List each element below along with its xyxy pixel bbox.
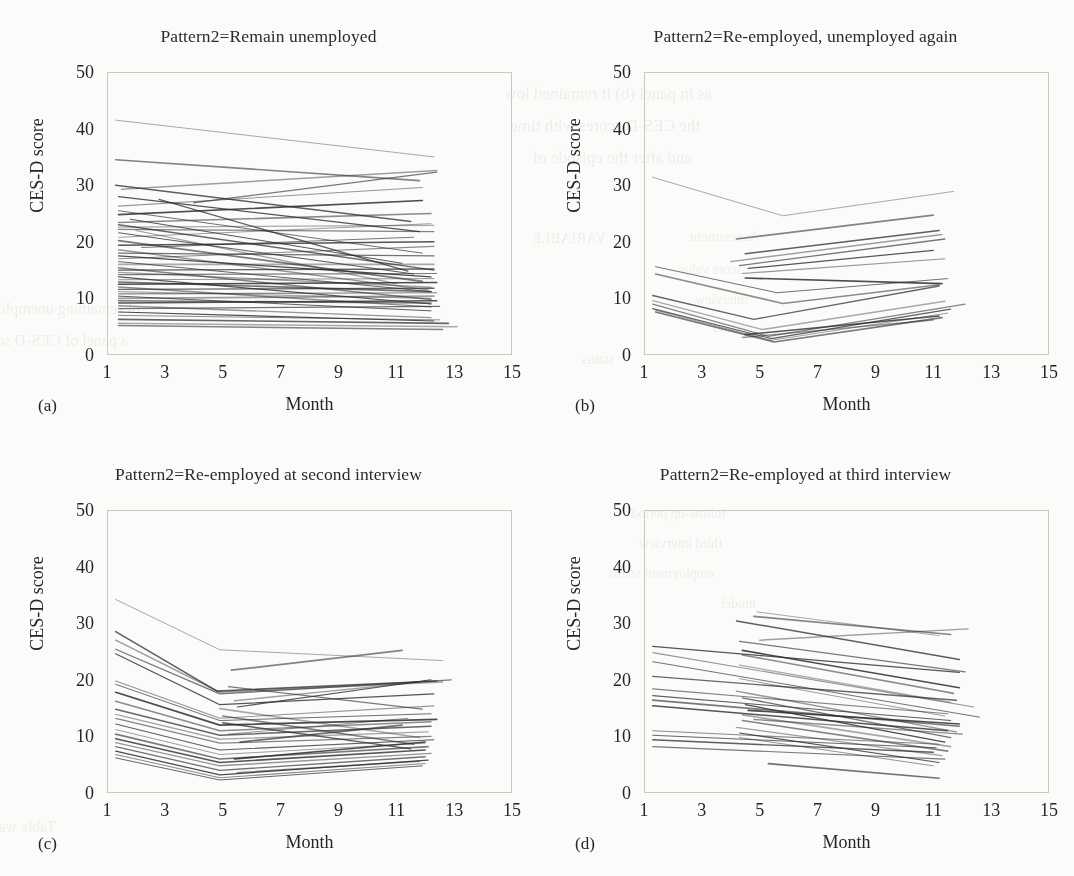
trajectory-line [745,278,942,284]
x-axis-tick-label: 15 [1029,801,1069,819]
panel-d-letter: (d) [575,834,595,854]
trajectory-line [116,160,420,181]
x-axis-tick-label: 9 [855,363,895,381]
trajectory-line [116,755,426,778]
x-axis-tick-label: 7 [261,363,301,381]
x-axis-tick-label: 3 [682,801,722,819]
x-axis-tick-label: 13 [971,801,1011,819]
trajectory-line [231,650,402,670]
y-axis-tick-label: 0 [585,784,631,802]
x-axis-tick-label: 9 [855,801,895,819]
x-axis-tick-label: 15 [492,801,532,819]
trajectory-line [116,649,452,694]
y-axis-tick-label: 0 [48,784,94,802]
trajectory-line [656,274,940,303]
x-axis-tick-label: 15 [492,363,532,381]
y-axis-tick-label: 30 [48,614,94,632]
y-axis-tick-label: 40 [48,120,94,138]
x-axis-tick-label: 7 [261,801,301,819]
panel-c-letter: (c) [38,834,57,854]
x-axis-tick-label: 13 [434,801,474,819]
trajectory-line [119,296,434,298]
panel-b-lines [644,72,1049,355]
panel-c-lines [107,510,512,793]
trajectory-line [116,120,434,157]
panel-d-lines [644,510,1049,793]
x-axis-tick-label: 1 [624,363,664,381]
y-axis-tick-label: 0 [48,346,94,364]
trajectory-line [237,680,431,707]
x-axis-tick-label: 11 [376,801,416,819]
trajectory-line [116,632,437,691]
trajectory-line [768,764,939,779]
y-axis-tick-label: 50 [48,63,94,81]
panel-a-lines [107,72,512,355]
panel-a-letter: (a) [38,396,57,416]
trajectory-line [119,279,434,280]
panel-c-title: Pattern2=Re-employed at second interview [0,464,537,485]
x-axis-tick-label: 1 [87,363,127,381]
y-axis-tick-label: 20 [48,233,94,251]
chart-panel-b: Pattern2=Re-employed, unemployed again C… [537,0,1074,438]
trajectory-line [119,288,434,289]
trajectory-line [653,177,954,215]
x-axis-tick-label: 3 [145,363,185,381]
figure-page: as in panel (b) it remained lowthe CES-D… [0,0,1074,876]
x-axis-tick-label: 5 [740,801,780,819]
trajectory-line [121,170,436,189]
y-axis-tick-label: 30 [585,614,631,632]
y-axis-tick-label: 20 [585,671,631,689]
panel-d-title: Pattern2=Re-employed at third interview [537,464,1074,485]
x-axis-tick-label: 11 [913,801,953,819]
y-axis-tick-label: 30 [585,176,631,194]
y-axis-tick-label: 10 [48,727,94,745]
x-axis-tick-label: 3 [682,363,722,381]
x-axis-tick-label: 7 [798,801,838,819]
y-axis-tick-label: 20 [585,233,631,251]
y-axis-tick-label: 10 [585,727,631,745]
trajectory-line [119,246,434,258]
trajectory-line [119,200,423,214]
panel-b-y-axis-label: CES-D score [564,76,585,256]
panel-a-y-axis-label: CES-D score [27,76,48,256]
y-axis-tick-label: 40 [48,558,94,576]
panel-a-title: Pattern2=Remain unemployed [0,26,537,47]
y-axis-tick-label: 40 [585,120,631,138]
y-axis-tick-label: 50 [48,501,94,519]
trajectory-line [731,234,942,261]
chart-panel-d: Pattern2=Re-employed at third interview … [537,438,1074,876]
y-axis-tick-label: 10 [48,289,94,307]
panel-d-x-axis-label: Month [644,832,1049,853]
y-axis-tick-label: 50 [585,501,631,519]
x-axis-tick-label: 5 [740,363,780,381]
trajectory-line [116,709,431,735]
trajectory-line [653,696,951,721]
y-axis-tick-label: 50 [585,63,631,81]
panel-b-letter: (b) [575,396,595,416]
x-axis-tick-label: 1 [624,801,664,819]
panel-a-x-axis-label: Month [107,394,512,415]
trajectory-line [656,310,948,340]
panel-b-x-axis-label: Month [644,394,1049,415]
y-axis-tick-label: 0 [585,346,631,364]
x-axis-tick-label: 3 [145,801,185,819]
x-axis-tick-label: 1 [87,801,127,819]
x-axis-tick-label: 9 [318,801,358,819]
x-axis-tick-label: 9 [318,363,358,381]
x-axis-tick-label: 5 [203,801,243,819]
y-axis-tick-label: 30 [48,176,94,194]
trajectory-line [194,172,437,203]
panel-d-y-axis-label: CES-D score [564,514,585,694]
panel-b-title: Pattern2=Re-employed, unemployed again [537,26,1074,47]
x-axis-tick-label: 15 [1029,363,1069,381]
y-axis-tick-label: 20 [48,671,94,689]
trajectory-line [742,655,953,693]
x-axis-tick-label: 11 [913,363,953,381]
trajectory-line [739,733,939,762]
panel-c-y-axis-label: CES-D score [27,514,48,694]
x-axis-tick-label: 13 [434,363,474,381]
chart-panel-c: Pattern2=Re-employed at second interview… [0,438,537,876]
x-axis-tick-label: 5 [203,363,243,381]
panel-c-x-axis-label: Month [107,832,512,853]
y-axis-tick-label: 10 [585,289,631,307]
